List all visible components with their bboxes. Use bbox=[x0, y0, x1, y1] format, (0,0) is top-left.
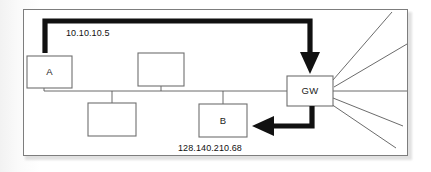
wan-link-lines bbox=[331, 12, 407, 148]
node-host-3[interactable] bbox=[88, 103, 136, 136]
destination-ip-label: 128.140.210.68 bbox=[178, 143, 242, 153]
inbound-flow-arrow bbox=[252, 106, 312, 136]
inbound-flow-arrowhead bbox=[252, 116, 274, 136]
network-diagram-screenshot: A B GW 10.10.10.5 128.140.210.68 bbox=[0, 0, 431, 172]
outbound-flow-arrowhead bbox=[300, 52, 320, 74]
ethernet-bus-group bbox=[44, 86, 287, 104]
inbound-flow-path bbox=[271, 106, 312, 126]
node-label-host-a: A bbox=[27, 66, 72, 77]
node-host-2[interactable] bbox=[138, 53, 184, 86]
wan-link-2 bbox=[334, 44, 407, 87]
source-ip-label: 10.10.10.5 bbox=[66, 28, 110, 38]
node-label-gateway: GW bbox=[287, 85, 333, 96]
node-label-host-b: B bbox=[199, 115, 247, 126]
